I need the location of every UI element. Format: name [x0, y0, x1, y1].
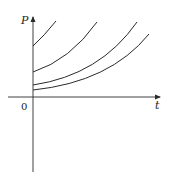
x-axis-label: t: [155, 99, 160, 112]
y-axis-label: P: [20, 14, 29, 27]
growth-curve-1: [33, 21, 56, 46]
growth-curve-2: [33, 22, 97, 72]
origin-label: 0: [21, 101, 27, 112]
growth-curve-3: [33, 22, 137, 85]
exponential-growth-figure: P 0 t: [0, 0, 185, 181]
